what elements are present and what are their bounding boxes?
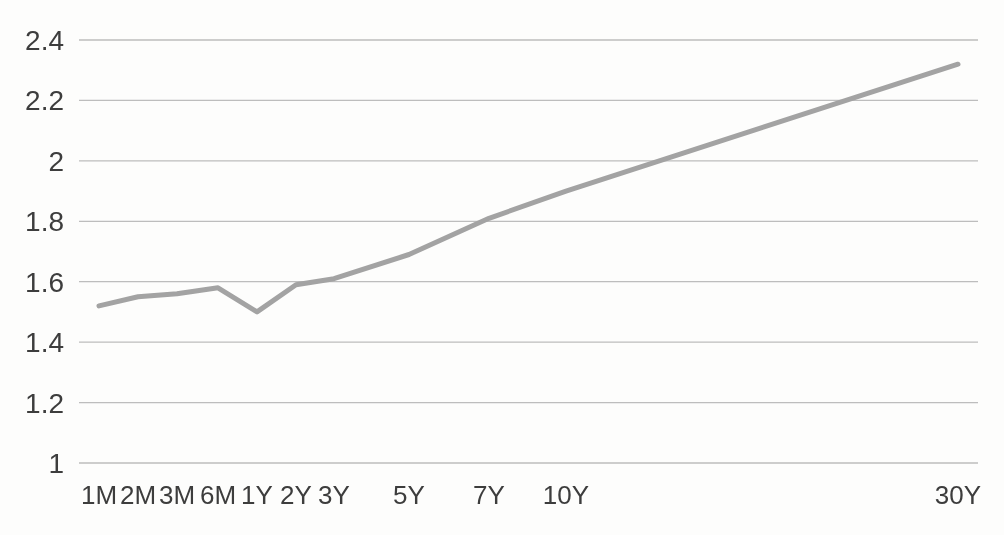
- x-tick-label: 2Y: [280, 480, 312, 510]
- x-tick-label: 2M: [120, 480, 156, 510]
- x-tick-label: 1M: [81, 480, 117, 510]
- chart-canvas: 2.42.221.81.61.41.21 1M2M3M6M1Y2Y3Y5Y7Y1…: [0, 0, 1004, 535]
- x-tick-label: 10Y: [543, 480, 589, 510]
- y-tick-label: 1: [48, 448, 64, 479]
- y-axis-labels: 2.42.221.81.61.41.21: [25, 25, 64, 479]
- x-tick-label: 6M: [200, 480, 236, 510]
- x-axis-labels: 1M2M3M6M1Y2Y3Y5Y7Y10Y30Y: [81, 480, 981, 510]
- yield-curve-line: [99, 64, 958, 312]
- y-tick-label: 2: [48, 146, 64, 177]
- x-tick-label: 5Y: [393, 480, 425, 510]
- y-tick-label: 1.6: [25, 267, 64, 298]
- y-tick-label: 2.2: [25, 85, 64, 116]
- x-tick-label: 3M: [159, 480, 195, 510]
- x-tick-label: 1Y: [241, 480, 273, 510]
- y-tick-label: 1.4: [25, 327, 64, 358]
- x-tick-label: 7Y: [473, 480, 505, 510]
- yield-curve-chart: 2.42.221.81.61.41.21 1M2M3M6M1Y2Y3Y5Y7Y1…: [0, 0, 1004, 535]
- x-tick-label: 30Y: [935, 480, 981, 510]
- scanned-chart-page: 2.42.221.81.61.41.21 1M2M3M6M1Y2Y3Y5Y7Y1…: [0, 0, 1004, 535]
- y-tick-label: 2.4: [25, 25, 64, 56]
- y-tick-label: 1.2: [25, 388, 64, 419]
- y-tick-label: 1.8: [25, 206, 64, 237]
- x-tick-label: 3Y: [318, 480, 350, 510]
